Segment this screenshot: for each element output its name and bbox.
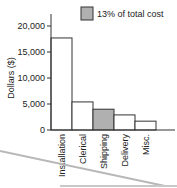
y-tick-label: 20,000	[17, 21, 45, 31]
category-labels: InstallationClericalShippingDeliveryMisc…	[57, 134, 151, 178]
legend-label: 13% of total cost	[97, 9, 164, 19]
y-tick-label: 15,000	[17, 47, 45, 57]
category-label: Installation	[57, 134, 67, 177]
y-tick-label: 0	[40, 125, 45, 135]
y-axis-title: Dollars ($)	[6, 57, 16, 99]
category-label: Shipping	[99, 134, 109, 169]
bar-clerical	[72, 102, 93, 130]
legend-swatch	[81, 7, 93, 20]
y-axis-ticks: 05,00010,00015,00020,000	[17, 21, 51, 135]
y-tick-label: 10,000	[17, 73, 45, 83]
legend: 13% of total cost	[81, 7, 164, 20]
y-tick-label: 5,000	[22, 99, 45, 109]
category-label: Delivery	[120, 134, 130, 167]
bar-misc	[135, 121, 156, 130]
bar-delivery	[114, 115, 135, 130]
category-label: Clerical	[78, 134, 88, 164]
bar-shipping	[93, 109, 114, 130]
bar-chart: 05,00010,00015,00020,000 InstallationCle…	[0, 0, 177, 188]
bars	[51, 38, 156, 130]
category-label: Misc.	[141, 134, 151, 155]
bar-installation	[51, 38, 72, 130]
